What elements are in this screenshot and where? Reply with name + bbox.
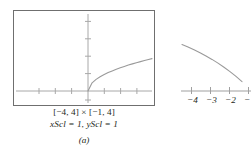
tick-label-partial: − (244, 95, 250, 105)
tick-label-minus-3: −3 (206, 95, 217, 105)
descending-curve (182, 45, 242, 82)
sqrt-graph (14, 11, 154, 105)
xscl-value: xScl = 1 (50, 119, 82, 129)
viewing-window-caption: [−4, 4] × [−1, 4] (13, 107, 155, 119)
tick-label-minus-2: −2 (225, 95, 236, 105)
sqrt-curve (88, 59, 152, 91)
figure-a-caption: [−4, 4] × [−1, 4] xScl = 1, yScl = 1 (a) (13, 107, 155, 147)
calculator-screen (14, 11, 154, 105)
figure-a-container: [−4, 4] × [−1, 4] xScl = 1, yScl = 1 (a) (0, 0, 168, 155)
figure-a-label: (a) (13, 135, 155, 147)
partial-graph (168, 0, 251, 110)
scale-caption: xScl = 1, yScl = 1 (13, 119, 155, 131)
figure-b-partial-container: −4 −3 −2 − (168, 0, 251, 155)
yscl-value: yScl = 1 (86, 119, 118, 129)
tick-label-minus-4: −4 (187, 95, 198, 105)
calculator-viewing-window (13, 10, 155, 106)
